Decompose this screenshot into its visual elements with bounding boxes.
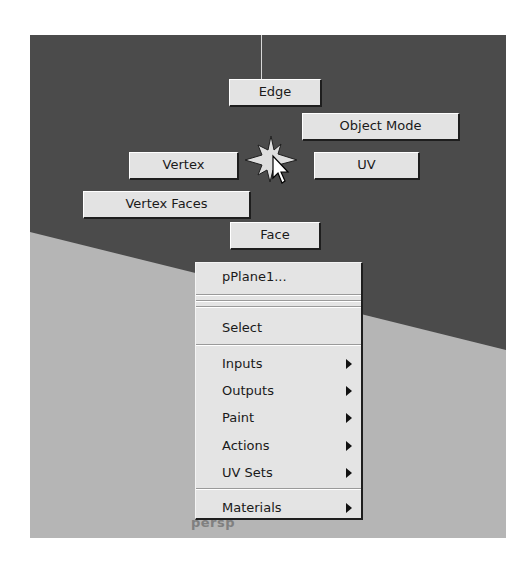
marking-menu-vertex-faces[interactable]: Vertex Faces — [83, 191, 251, 219]
axis-line — [261, 35, 262, 79]
menu-item-label: Inputs — [222, 352, 262, 376]
menu-item-pplane1[interactable]: pPlane1... — [196, 265, 361, 289]
marking-menu-vertex[interactable]: Vertex — [129, 152, 239, 180]
menu-item-label: Select — [222, 316, 262, 340]
submenu-arrow-icon — [346, 359, 352, 369]
menu-item-materials[interactable]: Materials — [196, 496, 361, 520]
menu-separator — [196, 344, 361, 346]
menu-item-paint[interactable]: Paint — [196, 406, 361, 430]
marking-menu-uv[interactable]: UV — [314, 152, 420, 180]
menu-separator — [196, 300, 361, 302]
menu-item-outputs[interactable]: Outputs — [196, 379, 361, 403]
menu-item-select[interactable]: Select — [196, 316, 361, 340]
menu-item-label: pPlane1... — [222, 265, 287, 289]
menu-item-uv-sets[interactable]: UV Sets — [196, 461, 361, 485]
marking-menu-object-mode[interactable]: Object Mode — [302, 113, 460, 141]
compass-star-icon — [243, 134, 299, 198]
marking-menu-face[interactable]: Face — [230, 222, 321, 250]
menu-item-inputs[interactable]: Inputs — [196, 352, 361, 376]
submenu-arrow-icon — [346, 441, 352, 451]
menu-item-label: Actions — [222, 434, 270, 458]
menu-item-label: Materials — [222, 496, 282, 520]
submenu-arrow-icon — [346, 413, 352, 423]
menu-item-label: UV Sets — [222, 461, 273, 485]
submenu-arrow-icon — [346, 386, 352, 396]
menu-separator — [196, 294, 361, 296]
menu-item-actions[interactable]: Actions — [196, 434, 361, 458]
menu-separator — [196, 488, 361, 490]
submenu-arrow-icon — [346, 503, 352, 513]
menu-separator — [196, 306, 361, 308]
submenu-arrow-icon — [346, 468, 352, 478]
marking-menu-edge[interactable]: Edge — [229, 79, 322, 107]
context-popup-menu: pPlane1... Select Inputs Outputs Paint A… — [195, 262, 363, 520]
menu-item-label: Outputs — [222, 379, 274, 403]
menu-item-label: Paint — [222, 406, 254, 430]
